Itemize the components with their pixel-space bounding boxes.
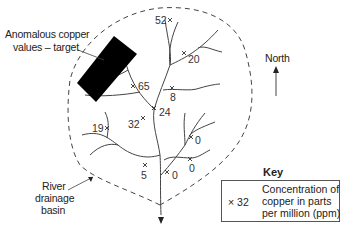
target-label-line1: Anomalous copper (5, 29, 89, 40)
key-desc-line2: copper in parts (262, 195, 342, 207)
sample-value: 8 (170, 92, 176, 103)
target-label-line2: values – target (13, 42, 79, 53)
basin-label-line3: basin (41, 205, 65, 216)
sample-value: 32 (128, 119, 140, 130)
key-description: Concentration of copper in parts per mil… (262, 183, 342, 219)
sample-value: 0 (189, 163, 195, 174)
north-label: North (265, 53, 290, 64)
sample-value: 0 (172, 170, 178, 181)
sample-value: 0 (195, 135, 201, 146)
north-arrow-icon (273, 66, 279, 73)
sample-value: 65 (138, 81, 150, 92)
key-desc-line1: Concentration of (262, 183, 342, 195)
key-symbol: × 32 (228, 196, 249, 208)
river-network (82, 20, 222, 215)
basin-label-line2: drainage (35, 193, 74, 204)
sample-value: 20 (188, 54, 200, 65)
key-title: Key (263, 166, 283, 178)
sample-value: 24 (159, 107, 171, 118)
sample-value: 52 (155, 15, 167, 26)
sample-value: 5 (141, 170, 147, 181)
flow-arrow-icon (158, 217, 164, 224)
basin-label-line1: River (42, 181, 66, 192)
key-box: × 32 Concentration of copper in parts pe… (221, 180, 340, 222)
key-desc-line3: per million (ppm) (262, 207, 342, 219)
sample-value: 19 (92, 123, 104, 134)
